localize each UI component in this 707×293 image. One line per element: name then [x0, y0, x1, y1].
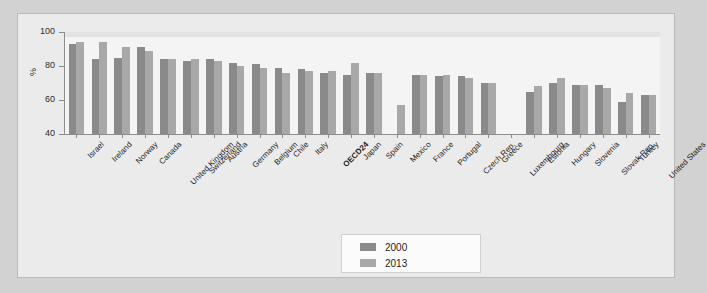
x-tick: [260, 134, 261, 138]
chart-legend: 2000 2013: [341, 234, 481, 273]
bar: [572, 85, 580, 134]
bar: [465, 78, 473, 134]
x-axis-label-mexico: Mexico: [408, 140, 432, 164]
bar: [99, 42, 107, 134]
bar: [366, 73, 374, 134]
bar-group: [458, 32, 474, 134]
y-tick-label-100: 100: [40, 26, 55, 37]
bar: [168, 59, 176, 134]
bar: [183, 61, 191, 134]
bar: [206, 59, 214, 134]
x-tick: [443, 134, 444, 138]
bar-group: [481, 32, 497, 134]
bar: [191, 59, 199, 134]
bar-group: [526, 32, 542, 134]
x-axis-label-slovenia: Slovenia: [593, 140, 621, 168]
x-tick: [76, 134, 77, 138]
bar-group: [92, 32, 108, 134]
bar: [320, 73, 328, 134]
bar: [214, 61, 222, 134]
x-tick: [511, 134, 512, 138]
bar-group: [595, 32, 611, 134]
bar: [641, 95, 649, 134]
y-tick-80: 80: [59, 66, 65, 67]
x-axis-label-germany: Germany: [250, 140, 280, 170]
bar: [374, 73, 382, 134]
bar-group: [412, 32, 428, 134]
x-axis-label-spain: Spain: [384, 140, 405, 161]
bar: [618, 102, 626, 134]
bar: [260, 68, 268, 134]
y-tick-40: 40: [59, 134, 65, 135]
bar: [351, 63, 359, 134]
x-tick: [328, 134, 329, 138]
bar-group: [114, 32, 130, 134]
bar: [160, 59, 168, 134]
x-tick: [282, 134, 283, 138]
bar-group: [229, 32, 245, 134]
bar-group: [160, 32, 176, 134]
bar: [534, 86, 542, 134]
x-tick: [351, 134, 352, 138]
bar-group: [618, 32, 634, 134]
x-tick: [168, 134, 169, 138]
x-axis-label-united-states: United States: [667, 140, 707, 180]
x-axis-line: [64, 134, 660, 135]
bar: [69, 44, 77, 134]
bar: [412, 75, 420, 135]
bar: [76, 42, 84, 134]
bar: [458, 76, 466, 134]
x-tick: [374, 134, 375, 138]
bar: [137, 47, 145, 134]
x-tick: [122, 134, 123, 138]
bar: [343, 75, 351, 135]
x-tick: [534, 134, 535, 138]
bar-group: [298, 32, 314, 134]
bar: [580, 85, 588, 134]
x-axis-label-norway: Norway: [134, 140, 160, 166]
bar: [252, 64, 260, 134]
bar-group: [320, 32, 336, 134]
y-axis-line: [64, 32, 65, 134]
bar: [488, 83, 496, 134]
x-tick: [488, 134, 489, 138]
bar: [122, 47, 130, 134]
x-tick: [649, 134, 650, 138]
bar: [237, 66, 245, 134]
bar-group: [69, 32, 85, 134]
x-tick: [465, 134, 466, 138]
bar: [595, 85, 603, 134]
bar: [114, 58, 122, 135]
x-tick: [557, 134, 558, 138]
bar: [420, 75, 428, 135]
x-axis-label-italy: Italy: [314, 140, 331, 157]
x-tick: [420, 134, 421, 138]
legend-swatch-2013: [360, 259, 376, 267]
bar: [298, 69, 306, 134]
bar-group: [366, 32, 382, 134]
bar: [557, 78, 565, 134]
x-tick: [626, 134, 627, 138]
x-tick: [214, 134, 215, 138]
bar: [229, 63, 237, 134]
x-tick: [237, 134, 238, 138]
bar: [397, 105, 405, 134]
x-axis-label-ireland: Ireland: [110, 140, 134, 164]
bar: [328, 71, 336, 134]
x-tick: [305, 134, 306, 138]
plot-top-band: [65, 32, 660, 37]
x-tick: [580, 134, 581, 138]
x-tick: [191, 134, 192, 138]
chart-figure: % 100806040 IsraelIrelandNorwayCanadaUni…: [17, 13, 675, 278]
bar: [443, 75, 451, 135]
bar: [305, 71, 313, 134]
bar: [626, 93, 634, 134]
bar-group: [435, 32, 451, 134]
bar: [481, 83, 489, 134]
x-tick: [99, 134, 100, 138]
x-axis-label-canada: Canada: [157, 140, 183, 166]
x-tick: [397, 134, 398, 138]
y-tick-label-80: 80: [45, 60, 55, 71]
bar-group: [549, 32, 565, 134]
bar-group: [275, 32, 291, 134]
